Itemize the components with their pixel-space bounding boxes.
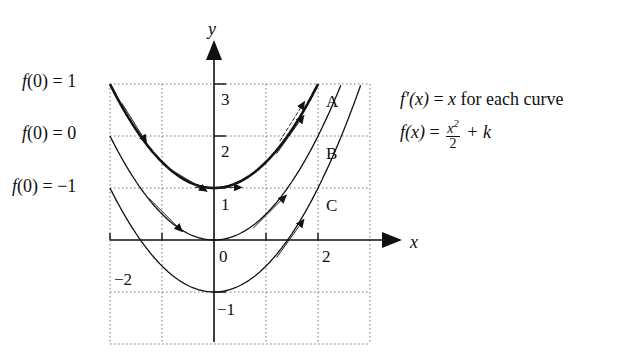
curve-label-C: C <box>326 197 337 214</box>
derivative-formula: f′(x) = x for each curve <box>400 90 564 108</box>
x-axis-label: x <box>410 233 418 251</box>
x-tick-neg2: −2 <box>114 271 132 288</box>
initial-condition-B: f(0) = 0 <box>22 124 76 142</box>
tangent-arrow-C <box>277 219 304 257</box>
x-tick-2: 2 <box>322 248 331 265</box>
general-solution-formula: f(x) = x2 2 + k <box>400 118 491 151</box>
curve-label-B: B <box>326 145 337 162</box>
x-tick-0: 0 <box>219 248 228 265</box>
tangent-arrow-B <box>253 195 286 228</box>
tangent-arrow-A <box>280 101 305 141</box>
initial-condition-A: f(0) = 1 <box>22 72 76 90</box>
initial-condition-C: f(0) = −1 <box>12 177 76 195</box>
tangent-arrow-A <box>122 103 147 143</box>
y-tick-1: 1 <box>221 196 230 213</box>
y-axis-label: y <box>208 20 216 38</box>
curve-label-A: A <box>326 93 338 110</box>
fraction: x2 2 <box>446 118 460 151</box>
coordinate-axes <box>110 42 400 342</box>
tangent-arrow-A <box>277 115 304 153</box>
y-tick-neg1: −1 <box>217 301 235 318</box>
y-tick-2: 2 <box>221 143 230 160</box>
diagram-canvas <box>0 0 634 357</box>
tangent-arrows <box>122 101 305 257</box>
y-tick-3: 3 <box>221 91 230 108</box>
tangent-arrow-B <box>149 198 182 231</box>
